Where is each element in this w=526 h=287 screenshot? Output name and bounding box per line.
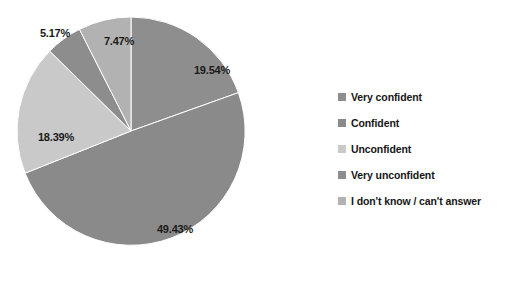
legend-item[interactable]: Very unconfident: [338, 162, 526, 187]
legend-item-label: I don't know / can't answer: [351, 195, 481, 207]
legend-item-label: Confident: [351, 117, 399, 129]
legend-swatch-icon: [338, 145, 346, 153]
pie-plot-area: 19.54%49.43%18.39%5.17%7.47%: [0, 0, 330, 287]
chart-legend: Very confidentConfidentUnconfidentVery u…: [338, 84, 526, 214]
pie-slice-label: 18.39%: [38, 131, 74, 143]
pie-slice-label: 5.17%: [40, 27, 70, 39]
legend-item[interactable]: Very confident: [338, 84, 526, 109]
legend-swatch-icon: [338, 171, 346, 179]
legend-swatch-icon: [338, 93, 346, 101]
legend-item[interactable]: I don't know / can't answer: [338, 188, 526, 213]
legend-item-label: Very unconfident: [351, 169, 435, 181]
pie-svg: [0, 0, 330, 287]
pie-chart: 19.54%49.43%18.39%5.17%7.47% Very confid…: [0, 0, 526, 287]
legend-item-label: Unconfident: [351, 143, 411, 155]
legend-item[interactable]: Confident: [338, 110, 526, 135]
pie-slice-label: 49.43%: [157, 223, 193, 235]
legend-item[interactable]: Unconfident: [338, 136, 526, 161]
legend-swatch-icon: [338, 197, 346, 205]
pie-slice-label: 19.54%: [194, 64, 230, 76]
pie-slice-label: 7.47%: [104, 35, 134, 47]
legend-swatch-icon: [338, 119, 346, 127]
legend-item-label: Very confident: [351, 91, 422, 103]
